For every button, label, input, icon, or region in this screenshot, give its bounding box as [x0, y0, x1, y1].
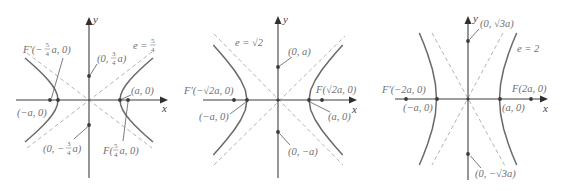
y-axis-arrow-icon: [275, 16, 282, 24]
x-axis-label: x: [161, 102, 167, 114]
leader-line: [123, 102, 128, 141]
covertex-bottom-label: (0, −a): [288, 146, 318, 158]
y-axis-label: y: [472, 12, 478, 24]
svg-text:a, 0): a, 0): [120, 145, 140, 157]
svg-text:(0, −: (0, −: [43, 143, 64, 155]
vertex-left-label: (−a, 0): [199, 111, 229, 123]
svg-text:5: 5: [151, 37, 155, 45]
covertex-top-label: (0, 3 4 a): [97, 50, 127, 67]
svg-text:4: 4: [46, 50, 50, 58]
focus-left-point: [232, 98, 236, 102]
y-axis-label: y: [92, 13, 98, 25]
covertex-bottom-point: [276, 130, 280, 134]
diagram-e-2: x y (0, √3a) e = 2 F′(−2a, 0) F(2a, 0) (…: [381, 12, 548, 180]
svg-text:5: 5: [114, 142, 118, 150]
leader-line: [122, 95, 131, 99]
leader-line: [471, 156, 482, 168]
leader-line: [52, 58, 64, 98]
eccentricity-label: e = 5 4: [133, 37, 156, 54]
vertex-right-point: [307, 98, 311, 102]
svg-text:4: 4: [67, 149, 71, 157]
focus-left-label: F′(−√2a, 0): [183, 85, 234, 97]
leader-line: [280, 134, 291, 146]
figure-canvas: x y F′(− 5 4 a, 0) e = 5 4: [0, 0, 567, 191]
leader-line: [310, 102, 330, 112]
svg-text:4: 4: [112, 59, 116, 67]
center-point: [466, 97, 469, 100]
svg-text:a): a): [73, 143, 82, 155]
focus-left-point: [404, 97, 408, 101]
vertex-right-label: (a, 0): [502, 102, 525, 114]
vertex-left-label: (−a, 0): [17, 107, 47, 119]
svg-text:F′(−: F′(−: [22, 44, 42, 56]
focus-right-point: [126, 98, 130, 102]
leader-line: [470, 29, 480, 40]
svg-text:e =: e =: [133, 40, 147, 51]
vertex-left-point: [56, 98, 60, 102]
eccentricity-label: e = 2: [517, 43, 540, 54]
x-axis-label: x: [351, 103, 357, 115]
svg-text:a, 0): a, 0): [52, 44, 72, 56]
diagram-e-5-4: x y F′(− 5 4 a, 0) e = 5 4: [16, 13, 168, 178]
vertex-left-point: [435, 97, 439, 101]
x-axis-label: x: [542, 102, 548, 114]
svg-text:F(: F(: [102, 145, 114, 157]
svg-text:a): a): [118, 53, 127, 65]
center-point: [276, 98, 279, 101]
focus-right-point: [320, 98, 324, 102]
y-axis-arrow-icon: [86, 17, 93, 25]
vertex-right-label: (a, 0): [131, 85, 154, 97]
leader-line: [74, 127, 88, 140]
focus-left-point: [48, 98, 52, 102]
vertex-left-label: (−a, 0): [403, 102, 433, 114]
focus-right-label: F( 5 4 a, 0): [102, 142, 139, 159]
svg-text:4: 4: [151, 46, 155, 54]
covertex-bottom-point: [87, 123, 91, 127]
eccentricity-label: e = √2: [235, 37, 264, 48]
leader-line: [91, 64, 98, 75]
vertex-left-point: [245, 98, 249, 102]
covertex-bottom-point: [466, 152, 470, 156]
covertex-top-label: (0, a): [288, 46, 311, 58]
covertex-top-point: [276, 65, 280, 69]
y-axis-label: y: [282, 13, 288, 25]
vertex-right-point: [498, 97, 502, 101]
focus-right-label: F(2a, 0): [511, 83, 547, 95]
svg-text:(0,: (0,: [97, 53, 108, 65]
covertex-bottom-label: (0, − 3 4 a): [43, 140, 82, 157]
covertex-top-point: [466, 39, 470, 43]
focus-right-label: F(√2a, 0): [315, 84, 357, 96]
svg-text:5: 5: [46, 41, 50, 49]
svg-text:4: 4: [114, 151, 118, 159]
y-axis-arrow-icon: [465, 16, 472, 24]
covertex-top-label: (0, √3a): [480, 18, 514, 30]
focus-left-label: F′(−2a, 0): [381, 84, 426, 96]
vertex-right-point: [118, 98, 122, 102]
covertex-bottom-label: (0, −√3a): [475, 168, 516, 180]
covertex-top-point: [87, 74, 91, 78]
svg-text:3: 3: [67, 140, 71, 148]
leader-line: [280, 57, 293, 66]
hyperbola-eccentricity-figure: x y F′(− 5 4 a, 0) e = 5 4: [0, 0, 567, 191]
focus-right-point: [529, 97, 533, 101]
svg-text:3: 3: [112, 50, 116, 58]
vertex-right-label: (a, 0): [328, 111, 351, 123]
diagram-e-sqrt2: x y e = √2 (0, a) F′(−√2a, 0) F(√2a, 0) …: [183, 13, 357, 178]
